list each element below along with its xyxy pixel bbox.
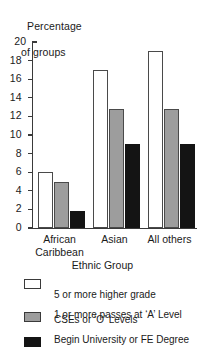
y-tick-18: 18: [28, 60, 33, 61]
x-category-label-0-line-1: African: [43, 233, 76, 245]
bar-series-0-category-0: [38, 172, 54, 228]
legend-swatch-gray: [24, 312, 41, 322]
x-category-label-0-line-2: Caribbean: [35, 246, 83, 258]
y-tick-8: 8: [28, 153, 33, 154]
bar-series-0-category-2: [148, 51, 164, 228]
legend-swatch-white: [24, 279, 41, 289]
bar-series-1-category-1: [109, 109, 125, 228]
y-tick-4: 4: [28, 190, 33, 191]
bar-series-1-category-2: [164, 109, 180, 228]
y-tick-16: 16: [28, 79, 33, 80]
x-category-label-1-line-1: Asian: [101, 233, 127, 245]
x-category-label-2: All others: [134, 233, 205, 246]
y-tick-label-16: 16: [2, 72, 22, 84]
y-axis-title-line-1: Percentage: [27, 20, 82, 32]
bar-series-1-category-0: [54, 182, 70, 229]
bar-series-0-category-1: [93, 70, 109, 228]
y-tick-label-20: 20: [6, 35, 26, 47]
y-tick-0: 0: [28, 227, 33, 228]
legend-item-2: Begin University or FE Degree: [24, 334, 189, 347]
x-axis-line: [32, 228, 197, 229]
y-tick-label-8: 8: [2, 147, 22, 159]
legend-swatch-black: [24, 337, 41, 347]
y-tick-20: 20: [32, 41, 37, 42]
y-tick-label-14: 14: [2, 91, 22, 103]
y-tick-label-18: 18: [2, 54, 22, 66]
bar-series-2-category-1: [125, 144, 141, 228]
y-tick-label-10: 10: [2, 128, 22, 140]
y-tick-6: 6: [28, 172, 33, 173]
x-category-label-2-line-1: All others: [148, 233, 192, 245]
plot-area: 20181614121086420: [32, 42, 197, 228]
y-tick-label-0: 0: [2, 221, 22, 233]
y-tick-14: 14: [28, 97, 33, 98]
legend-label-0-line-1: 5 or more higher grade: [54, 289, 156, 300]
y-tick-10: 10: [28, 134, 33, 135]
y-tick-label-12: 12: [2, 109, 22, 121]
y-tick-2: 2: [28, 209, 33, 210]
bar-series-2-category-2: [180, 144, 196, 228]
y-tick-label-4: 4: [2, 184, 22, 196]
y-tick-label-6: 6: [2, 165, 22, 177]
x-axis-title: Ethnic Group: [0, 259, 205, 271]
y-tick-label-2: 2: [2, 202, 22, 214]
y-tick-12: 12: [28, 116, 33, 117]
legend-item-1: 1 or more passes at ‘A’ Level: [24, 309, 182, 322]
legend-label-1: 1 or more passes at ‘A’ Level: [54, 309, 182, 322]
bar-chart: Percentage of groups 20181614121086420 E…: [0, 0, 205, 363]
legend-label-2: Begin University or FE Degree: [54, 334, 189, 347]
bar-series-2-category-0: [70, 211, 86, 228]
